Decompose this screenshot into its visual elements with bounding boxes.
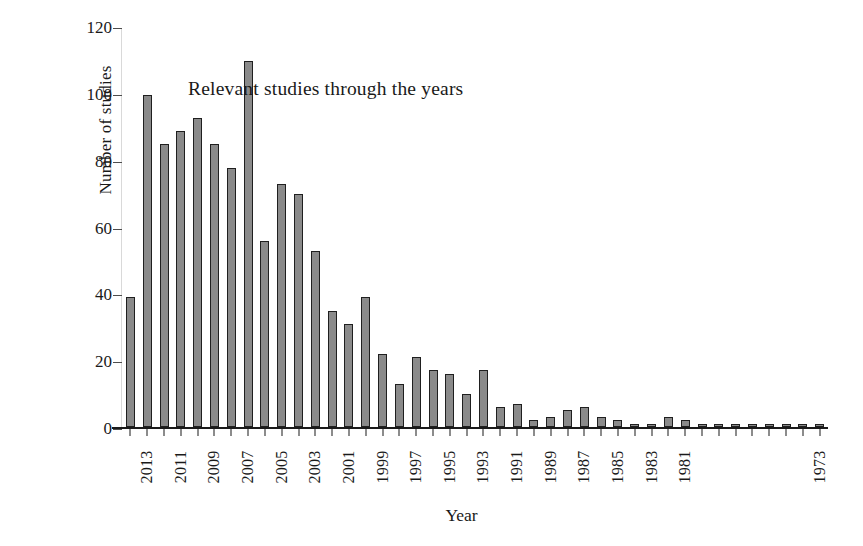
bar: [630, 424, 639, 427]
x-axis-tick-mark: [231, 429, 232, 436]
x-label-slot: [694, 437, 711, 499]
x-axis-tick-marks: [122, 429, 828, 436]
bar-slot: [526, 28, 543, 427]
x-label-slot: [391, 437, 408, 499]
bar-slot: [710, 28, 727, 427]
x-axis-tick-mark: [365, 429, 366, 436]
x-axis-tick-mark: [416, 429, 417, 436]
bar: [311, 251, 320, 427]
bar: [462, 394, 471, 427]
y-axis-tick-label: 100: [70, 85, 112, 105]
x-tick-slot: [778, 429, 795, 436]
x-label-slot: 1995: [441, 437, 458, 499]
x-axis-tick-mark: [769, 429, 770, 436]
x-tick-slot: [475, 429, 492, 436]
x-label-slot: 2005: [273, 437, 290, 499]
bar-slot: [156, 28, 173, 427]
x-label-slot: [122, 437, 139, 499]
x-label-slot: 2011: [172, 437, 189, 499]
x-axis-tick-label: 1989: [542, 450, 560, 483]
x-tick-slot: [761, 429, 778, 436]
x-tick-slot: [206, 429, 223, 436]
x-axis-tick-mark: [651, 429, 652, 436]
y-axis-tick-mark: [113, 295, 122, 296]
x-tick-slot: [727, 429, 744, 436]
x-label-slot: [710, 437, 727, 499]
x-axis-tick-mark: [786, 429, 787, 436]
x-tick-slot: [391, 429, 408, 436]
y-axis-tick-mark: [113, 429, 122, 430]
x-label-slot: [593, 437, 610, 499]
x-tick-slot: [273, 429, 290, 436]
bar: [714, 424, 723, 427]
x-axis-tick-mark: [483, 429, 484, 436]
bar: [479, 370, 488, 427]
x-axis-tick-label: 1999: [374, 450, 392, 483]
x-axis-tick-mark: [147, 429, 148, 436]
x-axis-tick-label: 1991: [508, 450, 526, 483]
bar-slot: [795, 28, 812, 427]
bar: [260, 241, 269, 427]
x-axis-tick-mark: [550, 429, 551, 436]
x-label-slot: [425, 437, 442, 499]
x-tick-slot: [441, 429, 458, 436]
x-axis-tick-mark: [718, 429, 719, 436]
x-label-slot: [324, 437, 341, 499]
bar: [143, 95, 152, 428]
bar: [193, 118, 202, 427]
x-tick-slot: [576, 429, 593, 436]
x-tick-slot: [223, 429, 240, 436]
bar: [210, 144, 219, 427]
y-axis-tick-mark: [113, 362, 122, 363]
x-axis-tick-mark: [517, 429, 518, 436]
x-label-slot: [778, 437, 795, 499]
x-tick-slot: [307, 429, 324, 436]
x-axis-tick-mark: [180, 429, 181, 436]
bar-slot: [643, 28, 660, 427]
bar: [731, 424, 740, 427]
bar: [580, 407, 589, 427]
x-tick-slot: [374, 429, 391, 436]
x-axis-tick-label: 1997: [407, 450, 425, 483]
bar: [328, 311, 337, 427]
bar-slot: [694, 28, 711, 427]
x-label-slot: 2009: [206, 437, 223, 499]
x-axis-tick-label: 2009: [205, 450, 223, 483]
x-axis-tick-mark: [752, 429, 753, 436]
x-axis-tick-mark: [702, 429, 703, 436]
x-label-slot: 1983: [643, 437, 660, 499]
x-axis-tick-mark: [617, 429, 618, 436]
x-tick-slot: [425, 429, 442, 436]
y-axis-tick-mark: [113, 28, 122, 29]
x-axis-tick-mark: [601, 429, 602, 436]
x-axis-tick-mark: [130, 429, 131, 436]
x-axis-tick-mark: [332, 429, 333, 436]
x-tick-slot: [324, 429, 341, 436]
x-label-slot: [357, 437, 374, 499]
x-label-slot: [761, 437, 778, 499]
x-label-slot: 1991: [509, 437, 526, 499]
bar-slot: [542, 28, 559, 427]
x-axis-tick-label: 2003: [306, 450, 324, 483]
x-axis-tick-mark: [584, 429, 585, 436]
x-tick-slot: [189, 429, 206, 436]
y-axis-tick-label: 80: [70, 152, 112, 172]
x-label-slot: 1993: [475, 437, 492, 499]
x-tick-slot: [357, 429, 374, 436]
bar: [798, 424, 807, 427]
x-label-slot: 1985: [610, 437, 627, 499]
x-axis-tick-mark: [735, 429, 736, 436]
x-axis-tick-mark: [449, 429, 450, 436]
x-axis-tick-label: 1983: [643, 450, 661, 483]
x-tick-slot: [677, 429, 694, 436]
x-tick-slot: [492, 429, 509, 436]
bar-slot: [761, 28, 778, 427]
bar: [815, 424, 824, 427]
x-label-slot: 2001: [341, 437, 358, 499]
bar: [748, 424, 757, 427]
bar-slot: [475, 28, 492, 427]
x-tick-slot: [156, 429, 173, 436]
y-axis-tick-mark: [113, 229, 122, 230]
bar-slot: [172, 28, 189, 427]
bar-slot: [139, 28, 156, 427]
